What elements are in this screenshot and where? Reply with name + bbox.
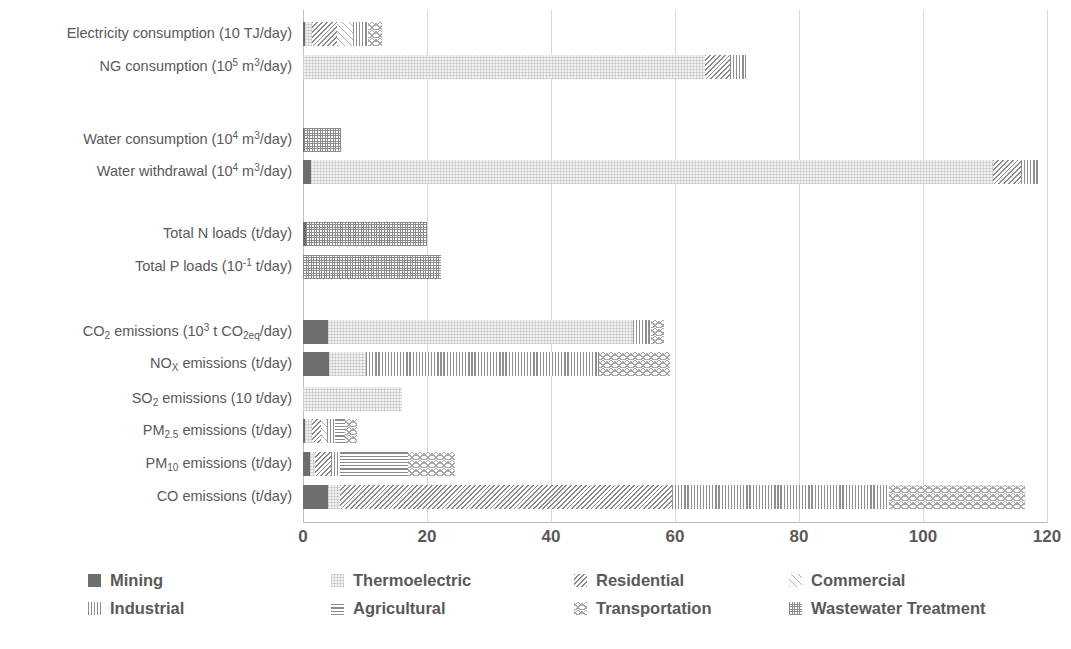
bar-segment-industrial bbox=[331, 452, 340, 476]
bar-segment-thermoelectric bbox=[328, 485, 340, 509]
legend-swatch-icon bbox=[88, 602, 101, 615]
x-tick-40: 40 bbox=[521, 527, 581, 547]
bar-segment-residential bbox=[312, 22, 337, 46]
legend-item-residential[interactable]: Residential bbox=[574, 571, 789, 590]
bar-segment-industrial bbox=[1021, 160, 1040, 184]
gridline-40 bbox=[551, 10, 552, 522]
bar-segment-thermoelectric bbox=[303, 55, 705, 79]
bar-segment-agricultural bbox=[340, 452, 408, 476]
x-tick-120: 120 bbox=[1017, 527, 1071, 547]
legend-swatch-icon bbox=[331, 602, 344, 615]
stacked-bar[interactable] bbox=[303, 352, 670, 376]
gridline-100 bbox=[923, 10, 924, 522]
bar-segment-mining bbox=[303, 485, 328, 509]
gridline-60 bbox=[675, 10, 676, 522]
bar-segment-industrial bbox=[366, 352, 599, 376]
stacked-bar[interactable] bbox=[303, 222, 427, 246]
bar-segment-mining bbox=[303, 160, 311, 184]
gridline-120 bbox=[1047, 10, 1048, 522]
stacked-bar[interactable] bbox=[303, 128, 341, 152]
y-axis-label: SO2 emissions (10 t/day) bbox=[0, 390, 292, 408]
bar-segment-commercial bbox=[337, 22, 353, 46]
legend-swatch-icon bbox=[789, 602, 802, 615]
x-tick-0: 0 bbox=[273, 527, 333, 547]
bar-segment-residential bbox=[340, 485, 672, 509]
legend-label: Mining bbox=[110, 571, 163, 590]
y-axis-label: CO emissions (t/day) bbox=[0, 488, 292, 504]
bar-segment-transportation bbox=[368, 22, 382, 46]
stacked-bar-chart: Electricity consumption (10 TJ/day)NG co… bbox=[0, 0, 1071, 649]
y-axis-label: CO2 emissions (103 t CO2eq/day) bbox=[0, 323, 292, 341]
y-axis-label: Electricity consumption (10 TJ/day) bbox=[0, 25, 292, 41]
x-tick-80: 80 bbox=[769, 527, 829, 547]
stacked-bar[interactable] bbox=[303, 387, 402, 411]
y-axis-label: Water withdrawal (104 m3/day) bbox=[0, 163, 292, 181]
bar-segment-industrial bbox=[672, 485, 889, 509]
stacked-bar[interactable] bbox=[303, 485, 1025, 509]
legend-swatch-icon bbox=[789, 574, 802, 587]
legend-label: Wastewater Treatment bbox=[811, 599, 986, 618]
bar-segment-agricultural bbox=[335, 419, 345, 443]
bar-segment-transportation bbox=[408, 452, 455, 476]
y-axis-label: NOX emissions (t/day) bbox=[0, 355, 292, 373]
legend-label: Industrial bbox=[110, 599, 184, 618]
bar-segment-thermoelectric bbox=[305, 22, 312, 46]
bar-segment-transportation bbox=[889, 485, 1025, 509]
legend-item-thermoelectric[interactable]: Thermoelectric bbox=[331, 571, 574, 590]
legend-swatch-icon bbox=[574, 602, 587, 615]
stacked-bar[interactable] bbox=[303, 255, 441, 279]
legend-label: Thermoelectric bbox=[353, 571, 471, 590]
stacked-bar[interactable] bbox=[303, 22, 382, 46]
x-axis-line bbox=[303, 522, 1048, 523]
gridline-80 bbox=[799, 10, 800, 522]
legend-label: Residential bbox=[596, 571, 684, 590]
y-axis-label: Water consumption (104 m3/day) bbox=[0, 131, 292, 149]
x-tick-20: 20 bbox=[397, 527, 457, 547]
bar-segment-industrial bbox=[633, 320, 652, 344]
y-axis-label: Total P loads (10-1 t/day) bbox=[0, 258, 292, 276]
y-axis-label: NG consumption (105 m3/day) bbox=[0, 58, 292, 76]
bar-segment-wastewater-treatment bbox=[306, 222, 427, 246]
stacked-bar[interactable] bbox=[303, 55, 746, 79]
legend-label: Agricultural bbox=[353, 599, 446, 618]
y-axis-label: Total N loads (t/day) bbox=[0, 225, 292, 241]
stacked-bar[interactable] bbox=[303, 419, 357, 443]
bar-segment-transportation bbox=[345, 419, 357, 443]
legend-swatch-icon bbox=[88, 574, 101, 587]
legend-item-mining[interactable]: Mining bbox=[88, 571, 331, 590]
bar-segment-industrial bbox=[730, 55, 746, 79]
legend-label: Transportation bbox=[596, 599, 712, 618]
bar-segment-wastewater-treatment bbox=[304, 128, 341, 152]
bar-segment-residential bbox=[993, 160, 1021, 184]
bar-segment-residential bbox=[705, 55, 730, 79]
bar-segment-thermoelectric bbox=[328, 320, 633, 344]
bar-segment-industrial bbox=[353, 22, 369, 46]
y-axis-label: PM10 emissions (t/day) bbox=[0, 455, 292, 473]
bar-segment-thermoelectric bbox=[311, 160, 993, 184]
bar-segment-residential bbox=[315, 452, 331, 476]
legend-item-agricultural[interactable]: Agricultural bbox=[331, 599, 574, 618]
bar-segment-industrial bbox=[327, 419, 335, 443]
legend-swatch-icon bbox=[574, 574, 587, 587]
stacked-bar[interactable] bbox=[303, 452, 455, 476]
bar-segment-mining bbox=[303, 352, 329, 376]
stacked-bar[interactable] bbox=[303, 320, 664, 344]
bar-segment-transportation bbox=[651, 320, 663, 344]
plot-area bbox=[303, 10, 1047, 522]
bar-segment-mining bbox=[303, 320, 328, 344]
legend: MiningThermoelectricResidentialCommercia… bbox=[88, 566, 1048, 622]
bar-segment-mining bbox=[303, 452, 310, 476]
legend-swatch-icon bbox=[331, 574, 344, 587]
legend-item-wastewater-treatment[interactable]: Wastewater Treatment bbox=[789, 599, 1048, 618]
legend-item-transportation[interactable]: Transportation bbox=[574, 599, 789, 618]
stacked-bar[interactable] bbox=[303, 160, 1040, 184]
x-tick-100: 100 bbox=[893, 527, 953, 547]
legend-item-commercial[interactable]: Commercial bbox=[789, 571, 1048, 590]
bar-segment-thermoelectric bbox=[303, 387, 402, 411]
bar-segment-thermoelectric bbox=[329, 352, 366, 376]
legend-item-industrial[interactable]: Industrial bbox=[88, 599, 331, 618]
x-tick-60: 60 bbox=[645, 527, 705, 547]
legend-label: Commercial bbox=[811, 571, 905, 590]
bar-segment-wastewater-treatment bbox=[303, 255, 441, 279]
y-axis-label: PM2.5 emissions (t/day) bbox=[0, 422, 292, 440]
